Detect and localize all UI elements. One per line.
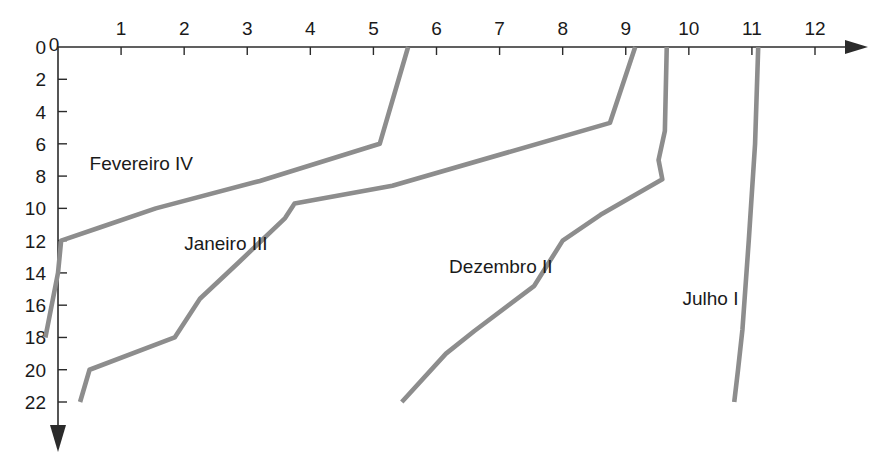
y-axis-arrow-icon	[50, 425, 66, 452]
x-axis-tick-label: 9	[620, 18, 631, 39]
y-axis-tick-label: 10	[25, 198, 46, 219]
curve-label-janeiro: Janeiro III	[184, 233, 267, 254]
y-axis-tick-label: 22	[25, 392, 46, 413]
curve-labels: Julho IDezembro IIJaneiro IIIFevereiro I…	[90, 153, 739, 310]
y-axis-tick-label: 4	[35, 102, 46, 123]
x-axis-tick-label: 5	[368, 18, 379, 39]
y-axis-tick-label: 0	[35, 37, 46, 58]
y-axis-tick-label: 20	[25, 360, 46, 381]
data-curves	[45, 47, 758, 402]
y-axis-tick-label: 16	[25, 295, 46, 316]
x-axis-arrow-icon	[845, 40, 868, 54]
y-axis-tick-label: 14	[25, 263, 47, 284]
depth-profile-chart: 0123456789101112 0246810121416182022 Jul…	[0, 0, 881, 465]
curve-label-dezembro: Dezembro II	[449, 256, 552, 277]
x-axis-tick-label: 7	[494, 18, 505, 39]
x-axis-tick-label: 2	[179, 18, 190, 39]
chart-container: 0123456789101112 0246810121416182022 Jul…	[0, 0, 881, 465]
y-axis-tick-label: 2	[35, 69, 46, 90]
x-axis-tick-label: 1	[116, 18, 127, 39]
x-axis: 0123456789101112	[49, 18, 868, 55]
x-axis-tick-label: 4	[305, 18, 316, 39]
x-axis-tick-label: 11	[742, 18, 762, 39]
x-axis-tick-label: 3	[242, 18, 253, 39]
curve-label-julho: Julho I	[683, 288, 739, 309]
y-axis-tick-label: 18	[25, 327, 46, 348]
y-axis-tick-label: 8	[35, 166, 46, 187]
curve-iii	[80, 47, 635, 402]
curve-ii	[402, 47, 667, 402]
x-axis-tick-label: 12	[804, 18, 825, 39]
curve-label-fevereiro: Fevereiro IV	[90, 153, 194, 174]
y-axis-tick-label: 6	[35, 134, 46, 155]
x-axis-tick-label: 10	[678, 18, 699, 39]
x-axis-tick-label: 8	[557, 18, 568, 39]
y-axis-tick-label: 12	[25, 231, 46, 252]
curve-i	[734, 47, 758, 402]
x-axis-tick-label: 6	[431, 18, 442, 39]
